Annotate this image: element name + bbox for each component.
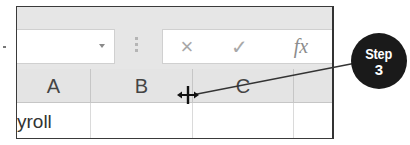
step-badge: Step 3 [351,33,407,89]
step-number: 3 [375,62,383,77]
step-label: Step [366,46,393,61]
callout-line [0,0,410,145]
column-resize-cursor-icon [176,83,200,107]
